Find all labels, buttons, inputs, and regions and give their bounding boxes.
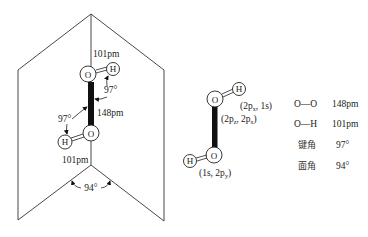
oo-orbital-label: (2pz, 2px) xyxy=(221,114,257,125)
param-value-dihedral-angle: 94° xyxy=(336,161,350,171)
svg-text:O: O xyxy=(85,70,92,80)
param-value-bond-angle: 97° xyxy=(336,140,350,150)
orbital-top-oxygen-atom: O xyxy=(207,91,223,107)
orbital-oo-bond xyxy=(212,106,218,148)
top-hydrogen-atom: H xyxy=(107,63,120,76)
bottom-oh-double-line xyxy=(71,134,84,141)
orbital-bottom-hydrogen-atom: H xyxy=(184,155,197,168)
parameters-table: O—O 148pm O—H 101pm 键角 97° 面角 94° xyxy=(294,99,359,171)
orbital-bottom-oh-double-line xyxy=(196,155,207,161)
hydrogen-peroxide-figure: O H O H 101pm 148pm 97° 97° 101pm 94° xyxy=(0,0,368,237)
top-oxygen-atom: O xyxy=(80,66,96,82)
orbital-bottom-oxygen-atom: O xyxy=(206,147,222,163)
param-value-oh: 101pm xyxy=(332,119,359,129)
bottom-oh-length-label: 101pm xyxy=(62,155,89,165)
bottom-oxygen-atom: O xyxy=(83,125,99,141)
param-label-oh: O—H xyxy=(294,119,317,129)
svg-text:O: O xyxy=(211,151,218,161)
svg-text:H: H xyxy=(62,137,69,147)
svg-text:H: H xyxy=(236,84,243,94)
svg-text:H: H xyxy=(110,64,117,74)
param-label-oo: O—O xyxy=(294,99,317,109)
top-oh-double-line xyxy=(96,67,107,73)
top-oh-orbital-label: (2px, 1s) xyxy=(240,101,272,112)
dihedral-angle-label: 94° xyxy=(84,183,98,193)
oo-length-label: 148pm xyxy=(97,108,124,118)
top-oh-length-label: 101pm xyxy=(93,49,120,59)
top-bond-angle-label: 97° xyxy=(104,85,118,95)
oo-bond xyxy=(88,82,94,128)
svg-text:O: O xyxy=(212,95,219,105)
bottom-bond-angle-label: 97° xyxy=(58,114,72,124)
param-label-dihedral-angle: 面角 xyxy=(298,160,316,171)
param-value-oo: 148pm xyxy=(332,99,359,109)
param-label-bond-angle: 键角 xyxy=(298,139,316,150)
svg-text:H: H xyxy=(187,156,194,166)
bottom-hydrogen-atom: H xyxy=(58,135,72,149)
svg-text:O: O xyxy=(88,129,95,139)
orbital-top-hydrogen-atom: H xyxy=(233,83,246,96)
bottom-oh-orbital-label: (1s, 2py) xyxy=(199,168,231,179)
